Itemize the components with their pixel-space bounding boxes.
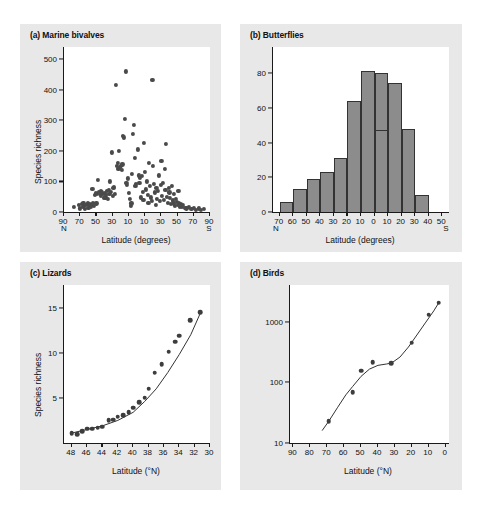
panel-c-xlabel-1: 46 <box>82 448 91 457</box>
panel-b-xtick <box>306 212 307 216</box>
panel-b-xtick <box>414 212 415 216</box>
panel-c-xlabel: Latitude (°N) <box>112 466 160 476</box>
panel-a-ylabel-0: 0 <box>29 208 57 217</box>
scatter-point <box>137 400 142 405</box>
scatter-point <box>112 185 116 189</box>
panel-b-xtick <box>374 212 375 216</box>
panel-a-xtick <box>63 212 64 216</box>
scatter-point <box>75 432 80 437</box>
scatter-point <box>113 192 117 196</box>
scatter-point <box>128 196 132 200</box>
scatter-point <box>166 350 171 355</box>
panel-b-xtick <box>292 212 293 216</box>
scatter-point <box>151 164 155 168</box>
histogram-bar <box>307 179 321 212</box>
panel-b-pole-south: S <box>443 224 448 233</box>
histogram-bar <box>347 101 361 212</box>
panel-d-xlabel-6: 30 <box>389 448 398 457</box>
panel-b-xlabel-7: 0 <box>371 217 375 226</box>
scatter-point <box>157 173 161 177</box>
panel-a-title: (a) Marine bivalves <box>30 30 104 40</box>
panel-d-xlabel-1: 80 <box>305 448 314 457</box>
histogram-bar <box>402 129 416 212</box>
panel-c-xlabel-8: 32 <box>189 448 198 457</box>
panel-c-xtick <box>132 443 133 447</box>
panel-a-xlabel-6: 30 <box>156 217 165 226</box>
panel-c-plot-area <box>63 285 210 444</box>
panel-a-xlabel-1: 70 <box>75 217 84 226</box>
panel-a-xtick <box>128 212 129 216</box>
histogram-bar <box>375 73 389 212</box>
panel-d-xtick <box>292 443 293 447</box>
scatter-point <box>188 318 193 323</box>
panel-b-xlabel-11: 40 <box>423 217 432 226</box>
panel-d-xlabel-2: 70 <box>322 448 331 457</box>
scatter-point <box>141 198 145 202</box>
scatter-point <box>96 178 100 182</box>
panel-b-xlabel-9: 20 <box>396 217 405 226</box>
scatter-point <box>426 312 431 317</box>
histogram-bar <box>293 189 307 212</box>
panel-b-ylabel-3: 60 <box>238 103 266 112</box>
panel-a-ytick <box>59 181 63 182</box>
histogram-bar <box>415 195 429 212</box>
scatter-point <box>126 410 131 415</box>
panel-a-xtick <box>79 212 80 216</box>
scatter-point <box>172 192 176 196</box>
panel-c-title: (c) Lizards <box>30 268 71 278</box>
panel-b-ylabel-0: 0 <box>238 208 266 217</box>
panel-d-title: (d) Birds <box>250 268 284 278</box>
scatter-point <box>69 431 74 436</box>
scatter-point <box>173 340 178 345</box>
panel-b-xlabel-8: 10 <box>383 217 392 226</box>
scatter-point <box>170 184 174 188</box>
panel-a-xlabel-8: 70 <box>188 217 197 226</box>
panel-d-ylabel-1: 100 <box>255 378 283 387</box>
scatter-point <box>198 310 203 315</box>
panel-c-xlabel-0: 48 <box>66 448 75 457</box>
panel-d-xtick <box>360 443 361 447</box>
scatter-point <box>122 135 126 139</box>
scatter-point <box>142 396 147 401</box>
panel-d-ytick <box>285 321 289 322</box>
panel-b-xlabel-3: 40 <box>315 217 324 226</box>
scatter-point <box>117 149 121 153</box>
scatter-point <box>177 333 182 338</box>
panel-a-datapoints <box>64 47 210 212</box>
panel-a-xlabel-3: 30 <box>107 217 116 226</box>
panel-c-xtick <box>71 443 72 447</box>
panel-d-xtick <box>445 443 446 447</box>
panel-b-xtick <box>387 212 388 216</box>
panel-b-ylabel-1: 20 <box>238 173 266 182</box>
panel-a-ytick <box>59 120 63 121</box>
panel-d-xtick <box>428 443 429 447</box>
panel-c-xlabel-6: 36 <box>158 448 167 457</box>
panel-c-xlabel-3: 42 <box>112 448 121 457</box>
scatter-point <box>120 162 124 166</box>
scatter-point <box>124 69 128 73</box>
panel-b-pole-north: N <box>273 224 279 233</box>
panel-c-ytick <box>59 307 63 308</box>
scatter-point <box>121 413 126 418</box>
panel-d-ytick <box>285 382 289 383</box>
panel-a-marine-bivalves: (a) Marine bivalves 0100200300400500 907… <box>20 24 221 252</box>
panel-b-xtick <box>346 212 347 216</box>
scatter-point <box>164 141 168 145</box>
panel-b-ytick <box>268 73 272 74</box>
scatter-point <box>162 167 166 171</box>
panel-d-fit-curve <box>290 285 449 443</box>
panel-b-bars <box>273 47 449 212</box>
panel-c-xtick <box>86 443 87 447</box>
panel-a-xlabel-5: 10 <box>140 217 149 226</box>
scatter-point <box>150 78 154 82</box>
scatter-point <box>176 189 180 193</box>
panel-a-pole-south: S <box>206 224 211 233</box>
panel-c-xtick <box>101 443 102 447</box>
scatter-point <box>167 190 171 194</box>
scatter-point <box>327 419 332 424</box>
scatter-point <box>154 203 158 207</box>
panel-a-xlabel-4: 10 <box>123 217 132 226</box>
panel-d-xtick <box>326 443 327 447</box>
panel-b-ytick <box>268 211 272 212</box>
scatter-point <box>131 132 135 136</box>
